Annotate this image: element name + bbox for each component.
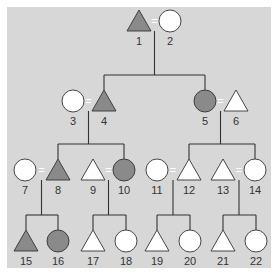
unaffected-female-circle-icon <box>159 10 181 32</box>
unaffected-male-triangle-icon <box>224 90 248 111</box>
individual-label: 7 <box>22 184 28 196</box>
individual-label: 20 <box>184 255 196 267</box>
individual-label: 15 <box>20 255 32 267</box>
individual-label: 22 <box>250 255 262 267</box>
unaffected-male-triangle-icon <box>81 230 105 251</box>
unaffected-female-circle-icon <box>14 159 36 181</box>
unaffected-male-triangle-icon <box>211 159 235 180</box>
unaffected-female-circle-icon <box>244 159 266 181</box>
pedigree-symbols: =======123456789101112131415161718192021… <box>14 10 267 267</box>
individual-label: 2 <box>167 35 173 47</box>
individual-label: 5 <box>202 115 208 127</box>
individual-label: 9 <box>90 184 96 196</box>
affected-male-triangle-icon <box>46 159 70 180</box>
mating-symbol: = <box>105 164 111 176</box>
individual-label: 17 <box>87 255 99 267</box>
individual-label: 6 <box>233 115 239 127</box>
pedigree-chart: =======123456789101112131415161718192021… <box>0 0 279 275</box>
unaffected-female-circle-icon <box>245 230 267 252</box>
unaffected-male-triangle-icon <box>81 159 105 180</box>
affected-male-triangle-icon <box>14 230 38 251</box>
affected-female-circle-icon <box>47 230 69 252</box>
individual-label: 10 <box>118 184 130 196</box>
unaffected-male-triangle-icon <box>177 159 201 180</box>
individual-label: 16 <box>52 255 64 267</box>
mating-symbol: = <box>85 95 91 107</box>
individual-label: 12 <box>183 184 195 196</box>
affected-male-triangle-icon <box>92 90 116 111</box>
individual-label: 1 <box>136 35 142 47</box>
individual-label: 13 <box>217 184 229 196</box>
individual-label: 4 <box>101 115 107 127</box>
unaffected-male-triangle-icon <box>211 230 235 251</box>
mating-symbol: = <box>38 164 44 176</box>
individual-label: 8 <box>55 184 61 196</box>
unaffected-female-circle-icon <box>62 90 84 112</box>
unaffected-female-circle-icon <box>179 230 201 252</box>
individual-label: 18 <box>120 255 132 267</box>
individual-label: 3 <box>70 115 76 127</box>
unaffected-female-circle-icon <box>115 230 137 252</box>
unaffected-female-circle-icon <box>146 159 168 181</box>
mating-symbol: = <box>151 15 157 27</box>
mating-symbol: = <box>236 164 242 176</box>
individual-label: 19 <box>151 255 163 267</box>
affected-female-circle-icon <box>113 159 135 181</box>
mating-symbol: = <box>170 164 176 176</box>
affected-male-triangle-icon <box>127 10 151 31</box>
unaffected-male-triangle-icon <box>145 230 169 251</box>
individual-label: 11 <box>151 184 162 196</box>
mating-symbol: = <box>217 95 223 107</box>
affected-female-circle-icon <box>194 90 216 112</box>
pedigree-lines <box>26 31 256 230</box>
individual-label: 21 <box>217 255 229 267</box>
individual-label: 14 <box>249 184 261 196</box>
